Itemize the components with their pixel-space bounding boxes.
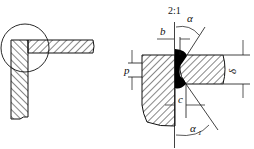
label-p: p [123, 64, 130, 76]
label-b: b [160, 25, 166, 37]
label-delta: δ [226, 68, 238, 74]
horizontal-plate [28, 40, 94, 53]
label-alpha: α [187, 12, 193, 24]
vertical-plate [11, 40, 28, 119]
scale-label: 2:1 [168, 5, 181, 16]
weld-joint-diagram: 2:1 b α p δ c [0, 0, 254, 149]
label-alpha1-subscript: 1 [198, 129, 202, 137]
detail-drawing: 2:1 b α p δ c [123, 5, 250, 148]
overview-drawing [1, 24, 94, 119]
label-alpha1: α [190, 122, 196, 134]
left-plate [142, 55, 175, 126]
label-c: c [178, 93, 183, 105]
right-plate [180, 55, 225, 84]
